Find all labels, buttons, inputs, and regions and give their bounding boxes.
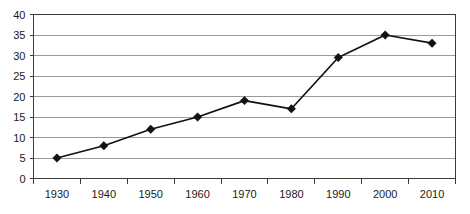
x-tick-label: 1990 xyxy=(326,188,350,200)
x-tick-label: 1980 xyxy=(279,188,303,200)
data-point-marker xyxy=(428,39,436,47)
y-tick-label: 30 xyxy=(13,50,25,62)
line-chart: 0510152025303540 19301940195019601970198… xyxy=(0,0,470,214)
x-tick-label: 1960 xyxy=(185,188,209,200)
y-tick-label: 40 xyxy=(13,9,25,21)
x-tick-label: 1950 xyxy=(138,188,162,200)
data-point-marker xyxy=(147,125,155,133)
x-tick-label: 2000 xyxy=(373,188,397,200)
y-axis-tick-labels: 0510152025303540 xyxy=(13,9,25,185)
data-point-marker xyxy=(240,96,248,104)
x-tick-label: 1930 xyxy=(45,188,69,200)
chart-canvas: 0510152025303540 19301940195019601970198… xyxy=(0,0,470,214)
y-tick-label: 5 xyxy=(19,152,25,164)
x-axis-tick-marks xyxy=(34,179,456,184)
y-tick-label: 25 xyxy=(13,70,25,82)
data-point-marker xyxy=(100,142,108,150)
x-tick-label: 2010 xyxy=(420,188,444,200)
y-tick-label: 0 xyxy=(19,173,25,185)
data-point-marker xyxy=(193,113,201,121)
y-tick-label: 15 xyxy=(13,111,25,123)
x-tick-label: 1970 xyxy=(232,188,256,200)
x-axis-tick-labels: 193019401950196019701980199020002010 xyxy=(45,188,445,200)
y-tick-label: 35 xyxy=(13,29,25,41)
x-tick-label: 1940 xyxy=(92,188,116,200)
data-point-marker xyxy=(53,154,61,162)
y-tick-label: 10 xyxy=(13,132,25,144)
y-tick-label: 20 xyxy=(13,91,25,103)
data-point-marker xyxy=(381,31,389,39)
